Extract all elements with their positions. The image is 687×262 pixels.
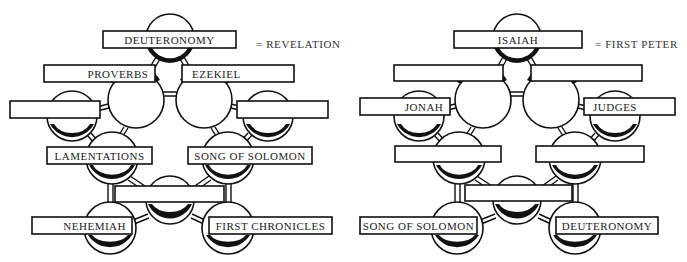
label-box-bottom-center bbox=[465, 185, 572, 201]
label-box-upper-right bbox=[531, 65, 642, 81]
label-text: FIRST CHRONICLES bbox=[216, 220, 326, 232]
label-box-bottom-center bbox=[115, 186, 224, 202]
label-text: SONG OF SOLOMON bbox=[194, 150, 305, 162]
label-text: ISAIAH bbox=[498, 34, 538, 46]
label-box-far-right bbox=[237, 101, 328, 118]
label-box-bottom-right: DEUTERONOMY bbox=[556, 217, 658, 234]
label-text: LAMENTATIONS bbox=[54, 150, 144, 162]
label-box-top: DEUTERONOMY bbox=[103, 31, 236, 48]
puzzle-right: ISAIAH JONAH JUDGES bbox=[360, 14, 678, 254]
answer-label: = REVELATION bbox=[256, 38, 341, 50]
label-box-bottom-left: SONG OF SOLOMON bbox=[360, 217, 477, 234]
label-text: PROVERBS bbox=[88, 68, 149, 80]
label-box-far-left bbox=[10, 101, 100, 118]
puzzle-left: DEUTERONOMY PROVERBS EZEKIEL LAMENTATION… bbox=[10, 14, 341, 254]
label-box-lower-right bbox=[536, 146, 644, 162]
label-box-far-right: JUDGES bbox=[584, 98, 675, 115]
label-text: DEUTERONOMY bbox=[124, 34, 214, 46]
label-box-bottom-right: FIRST CHRONICLES bbox=[209, 217, 332, 234]
label-box-lower-left: LAMENTATIONS bbox=[47, 147, 152, 164]
label-text: JUDGES bbox=[593, 101, 637, 113]
label-text: EZEKIEL bbox=[192, 68, 241, 80]
label-text: JONAH bbox=[405, 101, 444, 113]
label-box-lower-left bbox=[395, 146, 501, 162]
label-text: DEUTERONOMY bbox=[562, 220, 652, 232]
label-box-lower-right: SONG OF SOLOMON bbox=[188, 147, 312, 164]
label-text: SONG OF SOLOMON bbox=[363, 220, 474, 232]
label-text: NEHEMIAH bbox=[63, 220, 126, 232]
answer-label: = FIRST PETER bbox=[595, 38, 678, 50]
label-box-upper-right: EZEKIEL bbox=[182, 65, 294, 82]
label-box-top: ISAIAH bbox=[454, 31, 582, 48]
label-box-upper-left: PROVERBS bbox=[44, 65, 155, 82]
label-box-bottom-left: NEHEMIAH bbox=[32, 217, 132, 234]
label-box-upper-left bbox=[394, 65, 503, 81]
label-box-far-left: JONAH bbox=[360, 98, 450, 115]
